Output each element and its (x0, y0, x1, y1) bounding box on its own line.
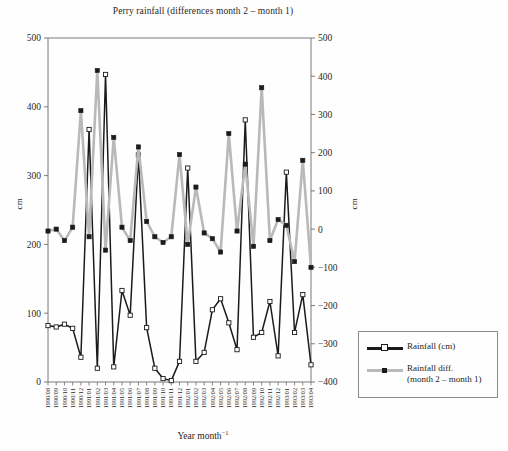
svg-text:0: 0 (36, 377, 41, 387)
svg-text:1992/11: 1992/11 (266, 388, 273, 408)
legend-item-rainfall-diff: Rainfall diff.(month 2 – month 1) (367, 363, 482, 385)
svg-text:1992/09: 1992/09 (250, 388, 257, 408)
svg-text:1991/08: 1991/08 (143, 388, 150, 408)
svg-text:1993/03: 1993/03 (299, 388, 306, 408)
svg-text:1990/12: 1990/12 (77, 388, 84, 408)
svg-text:1993/02: 1993/02 (291, 388, 298, 408)
svg-text:1991/07: 1991/07 (135, 388, 142, 408)
svg-text:100: 100 (27, 309, 42, 319)
svg-text:1991/01: 1991/01 (85, 388, 92, 408)
svg-text:−300: −300 (318, 339, 338, 349)
svg-text:1992/10: 1992/10 (258, 388, 265, 408)
svg-text:400: 400 (318, 72, 333, 82)
svg-text:1992/03: 1992/03 (200, 388, 207, 408)
svg-text:1992/08: 1992/08 (241, 388, 248, 408)
legend-label-line2: (month 2 – month 1) (407, 374, 482, 385)
svg-text:500: 500 (27, 33, 42, 43)
svg-text:1990/11: 1990/11 (69, 388, 76, 408)
svg-text:−400: −400 (318, 377, 338, 387)
svg-text:1992/01: 1992/01 (184, 388, 191, 408)
svg-text:1992/02: 1992/02 (192, 388, 199, 408)
svg-text:1991/05: 1991/05 (118, 388, 125, 408)
legend-label-rainfall: Rainfall (cm) (403, 341, 455, 352)
y-axis-label-right: cm (349, 198, 359, 210)
svg-text:200: 200 (27, 240, 42, 250)
chart-legend: Rainfall (cm) Rainfall diff.(month 2 – m… (358, 331, 498, 398)
svg-text:1991/06: 1991/06 (126, 388, 133, 408)
svg-text:1992/07: 1992/07 (233, 388, 240, 408)
svg-text:1992/05: 1992/05 (217, 388, 224, 408)
svg-text:1991/04: 1991/04 (110, 388, 117, 408)
svg-text:1991/02: 1991/02 (94, 388, 101, 408)
y-axis-label-left: cm (14, 198, 24, 210)
x-axis-label: Year month−1 (78, 429, 328, 441)
legend-label-line1: Rainfall diff. (407, 363, 453, 373)
svg-text:1990/08: 1990/08 (44, 388, 51, 408)
x-axis-label-text: Year month (177, 431, 221, 441)
svg-text:1990/10: 1990/10 (61, 388, 68, 408)
legend-swatch-rainfall (367, 342, 403, 354)
svg-text:1993/01: 1993/01 (283, 388, 290, 408)
legend-label-rainfall-diff: Rainfall diff.(month 2 – month 1) (403, 363, 482, 385)
svg-text:1991/09: 1991/09 (151, 388, 158, 408)
svg-text:200: 200 (318, 148, 333, 158)
svg-text:1991/11: 1991/11 (167, 388, 174, 408)
svg-text:1991/10: 1991/10 (159, 388, 166, 408)
svg-text:1991/12: 1991/12 (176, 388, 183, 408)
svg-text:−100: −100 (318, 263, 338, 273)
legend-swatch-rainfall-diff (367, 364, 403, 376)
legend-item-rainfall: Rainfall (cm) (367, 341, 455, 354)
svg-text:1993/04: 1993/04 (307, 388, 314, 408)
svg-text:1990/09: 1990/09 (52, 388, 59, 408)
svg-text:300: 300 (318, 110, 333, 120)
svg-text:500: 500 (318, 33, 333, 43)
svg-text:1992/12: 1992/12 (274, 388, 281, 408)
svg-text:300: 300 (27, 171, 42, 181)
svg-text:−200: −200 (318, 301, 338, 311)
svg-text:100: 100 (318, 186, 333, 196)
chart-canvas: Perry rainfall (differences month 2 – mo… (0, 0, 508, 451)
svg-text:1991/03: 1991/03 (102, 388, 109, 408)
svg-text:1992/06: 1992/06 (225, 388, 232, 408)
svg-text:400: 400 (27, 102, 42, 112)
x-axis-label-exponent: −1 (222, 429, 229, 436)
svg-text:1992/04: 1992/04 (209, 388, 216, 408)
svg-text:0: 0 (318, 225, 323, 235)
